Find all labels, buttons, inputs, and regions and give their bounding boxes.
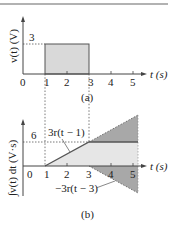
ramp-up-label: 3r(t − 1): [48, 126, 85, 139]
x-axis-label: t (s): [150, 160, 168, 173]
panel-b: 0 1 2 3 4 5 6 3r(t − 1) −3r(t − 3) t (s)…: [6, 115, 168, 221]
origin-label: 0: [20, 76, 26, 88]
tick-label: 5: [130, 76, 136, 88]
tick-label: 4: [108, 168, 114, 180]
x-axis-arrow-icon: [141, 72, 147, 76]
y-axis-arrow-icon: [21, 119, 25, 125]
x-axis-arrow-icon: [141, 164, 147, 168]
caption-a: (a): [81, 91, 94, 104]
y-axis-arrow-icon: [21, 16, 25, 22]
figure: 0 1 2 3 4 5 3 t (s) v(t) (V) (a): [0, 0, 177, 231]
panel-a: 0 1 2 3 4 5 3 t (s) v(t) (V) (a): [7, 16, 168, 104]
x-axis-label: t (s): [150, 68, 168, 81]
tick-label: 2: [64, 168, 70, 180]
ramp-up-leader: [62, 139, 70, 152]
ramp-down-leader: [96, 181, 115, 188]
light-fill: [45, 142, 138, 166]
tick-label: 4: [108, 76, 114, 88]
origin-label: 0: [27, 168, 33, 180]
caption-b: (b): [81, 208, 94, 221]
ramp-down-label: −3r(t − 3): [55, 182, 98, 195]
tick-label: 5: [130, 168, 136, 180]
tick-label: 1: [44, 168, 50, 180]
y-axis-label: v(t) (V): [7, 29, 20, 63]
tick-label: 2: [64, 76, 70, 88]
pulse-rect: [45, 44, 89, 74]
level-label: 6: [31, 129, 37, 141]
tick-label: 3: [86, 168, 92, 180]
y-axis-label: ∫v(t) dt (V·s): [6, 139, 19, 197]
level-label: 3: [29, 31, 35, 43]
